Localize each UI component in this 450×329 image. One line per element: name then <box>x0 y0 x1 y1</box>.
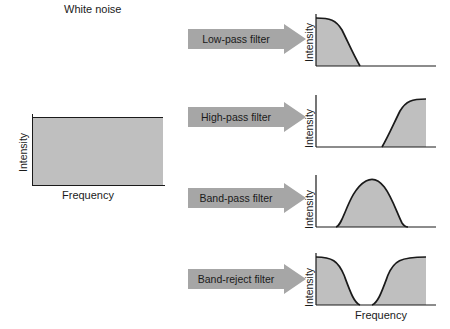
filter-response-diagram: White noise Intensity Frequency Low-pass… <box>0 0 450 329</box>
white-noise-spectrum-fill <box>33 117 163 186</box>
arrow-low-pass-filter: Low-pass filter <box>188 24 306 54</box>
high-pass-response-curve <box>310 93 438 155</box>
white-noise-x-axis <box>32 185 165 186</box>
white-noise-y-axis-label: Intensity <box>18 133 29 172</box>
white-noise-y-axis <box>32 114 33 186</box>
band-reject-response-panel <box>310 251 438 313</box>
arrow-low-pass-filter-label: Low-pass filter <box>188 24 284 54</box>
low-pass-response-panel <box>310 12 438 74</box>
band-pass-response-panel <box>310 173 438 235</box>
white-noise-title: White noise <box>64 4 121 15</box>
output-x-axis-label: Frequency <box>355 310 407 321</box>
arrow-band-pass-filter: Band-pass filter <box>188 183 306 213</box>
high-pass-response-panel <box>310 93 438 155</box>
white-noise-x-axis-label: Frequency <box>62 190 114 201</box>
arrow-band-pass-filter-label: Band-pass filter <box>188 183 284 213</box>
low-pass-response-curve <box>310 12 438 74</box>
band-reject-response-curve <box>310 251 438 313</box>
arrow-high-pass-filter-label: High-pass filter <box>188 102 284 132</box>
arrow-high-pass-filter: High-pass filter <box>188 102 306 132</box>
arrow-band-reject-filter: Band-reject filter <box>188 264 306 294</box>
band-pass-response-curve <box>310 173 438 235</box>
arrow-band-reject-filter-label: Band-reject filter <box>188 264 284 294</box>
